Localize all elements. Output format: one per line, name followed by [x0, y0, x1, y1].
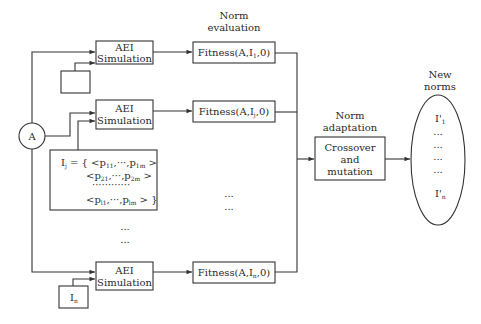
svg-text:...: ...	[433, 164, 443, 175]
norm-set-ij-box: Ij = { <p11,···,p1m > <p21,···,p2m > ···…	[50, 150, 158, 210]
fitness-box-j: Fitness(A,Ij,0)	[193, 101, 275, 122]
aei-simulation-box-n: AEI Simulation	[96, 262, 153, 290]
svg-text:AEI: AEI	[114, 42, 134, 53]
inputj-to-sim2-connector	[78, 121, 95, 150]
svg-text:mutation: mutation	[327, 166, 373, 177]
svg-text:...: ...	[433, 151, 443, 162]
a-to-sim2-connector	[44, 113, 95, 136]
svg-text:Norm: Norm	[335, 110, 365, 121]
inputn-to-simn-connector	[73, 279, 95, 286]
input1-to-sim1-connector	[75, 63, 95, 71]
svg-text:AEI: AEI	[114, 265, 134, 276]
svg-text:<pl1,···,plm > }: <pl1,···,plm > }	[86, 194, 158, 206]
fitness-box-n: Fitness(A,In,0)	[193, 262, 275, 283]
svg-text:AEI: AEI	[114, 103, 134, 114]
svg-text:and: and	[341, 154, 360, 165]
fitness-bus-connector	[275, 53, 297, 272]
norm-evolution-diagram: Norm evaluation Norm adaptation New norm…	[0, 0, 481, 324]
ellipsis-left-1: ...	[120, 221, 130, 232]
svg-text:Simulation: Simulation	[97, 115, 152, 126]
aei-simulation-box-1: AEI Simulation	[96, 41, 153, 64]
ellipsis-mid-2: ...	[224, 201, 234, 212]
agent-node: A	[19, 123, 45, 149]
svg-text:evaluation: evaluation	[208, 22, 261, 33]
norm-evaluation-label: Norm evaluation	[208, 10, 261, 33]
svg-text:············: ············	[92, 179, 130, 190]
new-norms-ellipse: I'1 ... ... ... ... I'n	[411, 95, 465, 225]
svg-text:Simulation: Simulation	[97, 277, 152, 288]
svg-text:Crossover: Crossover	[324, 142, 375, 153]
crossover-mutation-box: Crossover and mutation	[315, 137, 385, 180]
svg-text:Fitness(A,In,0): Fitness(A,In,0)	[198, 267, 270, 279]
ellipsis-mid-1: ...	[224, 188, 234, 199]
norm-input-box-n: In	[59, 286, 88, 308]
fitness-box-1: Fitness(A,I1,0)	[193, 42, 275, 63]
norm-adaptation-label: Norm adaptation	[323, 110, 378, 133]
svg-text:Simulation: Simulation	[97, 53, 152, 64]
svg-text:...: ...	[433, 126, 443, 137]
svg-text:Fitness(A,I1,0): Fitness(A,I1,0)	[198, 47, 270, 59]
svg-text:adaptation: adaptation	[323, 122, 378, 133]
svg-text:A: A	[27, 131, 36, 142]
aei-simulation-box-2: AEI Simulation	[96, 100, 153, 129]
svg-text:norms: norms	[424, 81, 456, 92]
ellipsis-left-2: ...	[120, 234, 130, 245]
new-norms-label: New norms	[424, 69, 456, 92]
svg-text:Norm: Norm	[219, 10, 249, 21]
svg-text:...: ...	[433, 139, 443, 150]
svg-text:New: New	[428, 69, 452, 80]
norm-input-box-1	[61, 71, 90, 93]
